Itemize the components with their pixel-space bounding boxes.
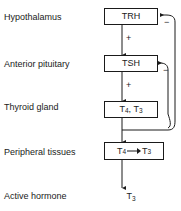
node-active-hormone: T3 [104, 192, 158, 201]
node-tsh-label: TSH [122, 59, 140, 68]
row-label-active-hormone: Active hormone [4, 192, 67, 201]
conversion-arrow-icon [126, 147, 142, 155]
node-peripheral-t3-subscript: 3 [148, 149, 152, 156]
node-tsh: TSH [104, 55, 158, 72]
node-peripheral-t4-subscript: 4 [122, 149, 126, 156]
row-label-hypothalamus: Hypothalamus [4, 13, 62, 22]
sign-plus-trh-to-tsh: + [126, 34, 131, 43]
diagram-canvas: Hypothalamus Anterior pituitary Thyroid … [0, 0, 181, 211]
sign-plus-tsh-to-thyroid: + [126, 81, 131, 90]
node-thyroid-hormones: T4, T3 [104, 101, 158, 118]
node-trh: TRH [104, 8, 158, 25]
sign-minus-feedback-tsh: − [163, 66, 168, 75]
node-thyroid-t3-subscript: 3 [139, 108, 143, 115]
row-label-thyroid-gland: Thyroid gland [4, 103, 59, 112]
row-label-peripheral-tissues: Peripheral tissues [4, 148, 76, 157]
node-trh-label: TRH [122, 12, 141, 21]
row-label-anterior-pituitary: Anterior pituitary [4, 60, 70, 69]
node-thyroid-separator: , T [129, 105, 139, 114]
sign-minus-feedback-trh: − [164, 18, 169, 27]
node-active-subscript: 3 [132, 195, 136, 202]
node-thyroid-t4-subscript: 4 [125, 108, 129, 115]
node-peripheral-conversion: T4 T3 [104, 142, 164, 160]
